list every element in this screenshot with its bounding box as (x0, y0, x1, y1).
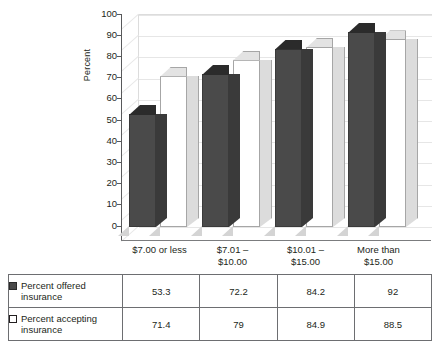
y-tick-label-50: 50 (93, 115, 117, 125)
table-value-cell: 53.3 (123, 275, 200, 308)
legend-label-line1: Percent offered (21, 280, 86, 291)
legend-label-line1: Percent accepting (21, 313, 97, 324)
plot-area (121, 14, 431, 241)
table-value-cell: 88.5 (354, 308, 431, 341)
bar-front-face (275, 49, 302, 228)
bar-side-face (406, 39, 418, 227)
bar-chart: Percent 1009080706050403020100 $7.00 or … (0, 0, 441, 268)
y-tick-label-20: 20 (93, 178, 117, 188)
table-value-cell: 84.2 (277, 275, 354, 308)
bar-side-face (156, 114, 167, 227)
bar-side-face (302, 49, 313, 228)
bar-side-face (333, 47, 345, 227)
y-axis-line (121, 14, 122, 241)
gridline (139, 227, 432, 228)
perspective-line (121, 14, 139, 30)
x-category-label-line: More than (336, 244, 421, 256)
legend-label-line2: insurance (9, 291, 122, 303)
perspective-line (121, 56, 139, 72)
y-tick-label-100: 100 (93, 9, 117, 19)
bar-side-face (260, 60, 272, 227)
table-value-cell: 92 (354, 275, 431, 308)
legend-label-line2: insurance (9, 324, 122, 336)
table-value-cell: 84.9 (277, 308, 354, 341)
legend-series-name-cell: Percent offeredinsurance (9, 275, 123, 308)
bar-offered-2 (275, 49, 302, 228)
bar-top-face (129, 105, 156, 115)
bar-floor-shadow (118, 226, 129, 236)
bar-front-face (348, 32, 375, 227)
table-value-cell: 79 (200, 308, 277, 341)
legend-swatch-light-icon (9, 315, 17, 323)
bar-offered-3 (348, 32, 375, 227)
y-tick-label-40: 40 (93, 136, 117, 146)
table-value-cell: 72.2 (200, 275, 277, 308)
bar-offered-0 (129, 114, 156, 227)
gridline (139, 15, 432, 16)
table-row: Percent offeredinsurance53.372.284.292 (9, 275, 432, 308)
table-row: Percent acceptinginsurance71.47984.988.5 (9, 308, 432, 341)
bar-side-face (375, 32, 386, 227)
y-tick-label-60: 60 (93, 93, 117, 103)
bar-side-face (187, 76, 199, 227)
y-tick-label-70: 70 (93, 72, 117, 82)
legend-data-table: Percent offeredinsurance53.372.284.292Pe… (8, 274, 432, 341)
table-value-cell: 71.4 (123, 308, 200, 341)
legend-swatch-dark-icon (9, 282, 17, 290)
y-tick-label-10: 10 (93, 199, 117, 209)
y-tick-label-80: 80 (93, 51, 117, 61)
perspective-line (121, 35, 139, 51)
x-category-label-3: More than$15.00 (336, 244, 421, 267)
bar-offered-1 (202, 74, 229, 227)
bar-front-face (202, 74, 229, 227)
y-tick-label-0: 0 (93, 221, 117, 231)
y-tick-label-30: 30 (93, 157, 117, 167)
x-axis-line (121, 240, 431, 241)
y-axis-title: Percent (82, 30, 92, 100)
bar-front-face (129, 114, 156, 227)
x-category-label-line: $15.00 (336, 256, 421, 268)
bar-side-face (229, 74, 240, 227)
y-tick-label-90: 90 (93, 30, 117, 40)
legend-series-name-cell: Percent acceptinginsurance (9, 308, 123, 341)
perspective-line (121, 78, 139, 94)
